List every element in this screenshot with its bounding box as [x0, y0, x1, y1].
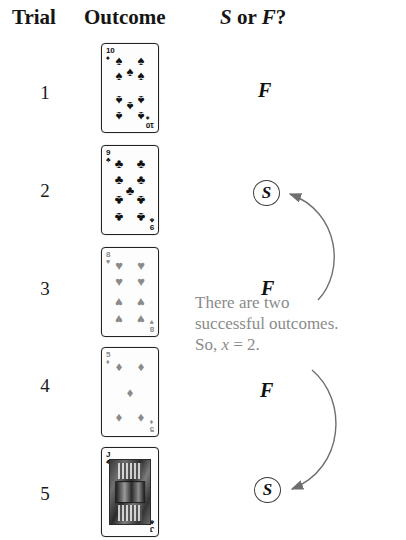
annotation-value: = 2. — [229, 335, 260, 354]
playing-card-trial-3: 8♥8♥♥♥♥♥♥♥♥♥ — [101, 247, 159, 337]
card-pip-spade: ♠ — [116, 110, 123, 123]
annotation-text: There are two successful outcomes. So, x… — [195, 292, 395, 355]
trial-number-1: 1 — [30, 83, 60, 102]
annotation-line-2: successful outcomes. — [195, 313, 395, 334]
card-pip-diamond: ♦ — [116, 360, 123, 373]
card-pip-heart: ♥ — [115, 259, 123, 272]
card-face-band — [115, 481, 145, 503]
header-or-word: or — [232, 5, 262, 29]
trial-number-3: 3 — [30, 279, 60, 298]
annotation-variable-x: x — [221, 335, 229, 354]
card-pip-grid: ♥♥♥♥♥♥♥♥ — [108, 260, 152, 324]
header-s-letter: S — [220, 5, 232, 29]
column-header-trial: Trial — [12, 7, 56, 28]
card-pip-diamond: ♦ — [127, 386, 134, 399]
card-pip-club: ♣ — [115, 157, 124, 170]
card-pip-grid: ♦♦♦♦♦ — [108, 360, 152, 424]
card-rank: 9 — [150, 223, 154, 231]
card-pip-heart: ♥ — [115, 312, 123, 325]
card-pip-heart: ♥ — [115, 296, 123, 309]
card-pip-spade: ♠ — [127, 99, 134, 112]
column-header-s-or-f: S or F? — [220, 7, 286, 28]
card-pip-club: ♣ — [137, 173, 146, 186]
annotation-line-3: So, x = 2. — [195, 334, 395, 355]
card-pip-spade: ♠ — [138, 69, 145, 82]
card-pip-club: ♣ — [115, 194, 124, 207]
playing-card-trial-5: J♣J♣ — [101, 447, 159, 537]
card-pip-spade: ♠ — [127, 65, 134, 78]
card-pip-spade: ♠ — [138, 110, 145, 123]
result-mark-trial-2: S — [253, 180, 280, 206]
annotation-so-prefix: So, — [195, 335, 221, 354]
card-pip-club: ♣ — [115, 173, 124, 186]
trial-number-5: 5 — [30, 484, 60, 503]
card-pip-spade: ♠ — [116, 69, 123, 82]
card-pip-spade: ♠ — [138, 53, 145, 66]
card-pip-grid: ♣♣♣♣♣♣♣♣♣ — [108, 158, 152, 222]
trial-number-2: 2 — [30, 181, 60, 200]
card-pip-spade: ♠ — [138, 93, 145, 106]
card-pip-diamond: ♦ — [116, 411, 123, 424]
annotation-line-1: There are two — [195, 292, 395, 313]
card-pip-heart: ♥ — [137, 259, 145, 272]
card-pip-diamond: ♦ — [138, 411, 145, 424]
card-rank: J — [150, 525, 154, 533]
arrow-to-success-trial-5 — [292, 370, 336, 489]
card-pip-heart: ♥ — [115, 275, 123, 288]
trial-number-4: 4 — [30, 376, 60, 395]
column-header-outcome: Outcome — [84, 7, 166, 28]
arrow-to-success-trial-2 — [290, 194, 334, 300]
arrow-layer — [0, 0, 406, 540]
card-pip-grid: ♠♠♠♠♠♠♠♠♠♠ — [108, 56, 152, 120]
playing-card-trial-1: 10♠10♠♠♠♠♠♠♠♠♠♠♠ — [101, 43, 159, 133]
card-pip-spade: ♠ — [116, 93, 123, 106]
card-rank: 5 — [150, 425, 154, 433]
result-mark-trial-4: F — [260, 380, 273, 400]
card-pip-heart: ♥ — [137, 312, 145, 325]
result-mark-trial-1: F — [258, 80, 271, 100]
result-mark-trial-5: S — [254, 477, 281, 503]
card-pip-club: ♣ — [115, 210, 124, 223]
card-pip-club: ♣ — [137, 210, 146, 223]
card-pip-club: ♣ — [137, 157, 146, 170]
playing-card-trial-4: 5♦5♦♦♦♦♦♦ — [101, 347, 159, 437]
card-rank: 10 — [146, 121, 154, 129]
card-pip-club: ♣ — [137, 194, 146, 207]
card-pip-heart: ♥ — [137, 275, 145, 288]
card-face-artwork — [109, 459, 151, 525]
card-pip-club: ♣ — [126, 184, 135, 197]
card-rank: 8 — [150, 325, 154, 333]
card-pip-diamond: ♦ — [138, 360, 145, 373]
playing-card-trial-2: 9♣9♣♣♣♣♣♣♣♣♣♣ — [101, 145, 159, 235]
card-pip-heart: ♥ — [137, 296, 145, 309]
result-letter-trial-2: S — [262, 184, 271, 201]
card-pip-spade: ♠ — [116, 53, 123, 66]
header-f-letter: F — [262, 5, 276, 29]
result-letter-trial-5: S — [263, 481, 272, 498]
header-question-mark: ? — [276, 5, 287, 29]
